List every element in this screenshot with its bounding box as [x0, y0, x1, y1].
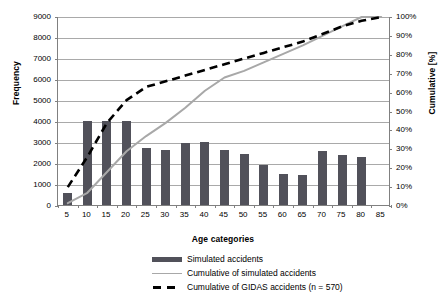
- dashed-line-swatch-swatch-fill: [153, 286, 181, 289]
- y-axis-right-tick-label: 0%: [396, 202, 436, 210]
- plot-area: [57, 17, 390, 206]
- frequency-cumulative-chart: Frequency Cumulative [%] Age categories …: [0, 0, 446, 302]
- legend-item: Cumulative of GIDAS accidents (n = 570): [0, 280, 446, 294]
- bar-swatch-swatch-fill: [152, 257, 182, 262]
- y-axis-left-tick-label: 3000: [0, 139, 56, 147]
- y-axis-right-tick-label: 90%: [396, 32, 436, 40]
- legend-label: Simulated accidents: [187, 254, 263, 264]
- line-swatch-swatch-fill: [152, 273, 182, 275]
- line-swatch: [152, 268, 182, 278]
- y-axis-right-tick-label: 70%: [396, 70, 436, 78]
- y-axis-left-tick-label: 8000: [0, 34, 56, 42]
- y-axis-left-tick-label: 5000: [0, 97, 56, 105]
- legend-item: Cumulative of simulated accidents: [0, 266, 446, 280]
- y-axis-right-tick-label: 30%: [396, 145, 436, 153]
- y-axis-right-tick-label: 50%: [396, 108, 436, 116]
- x-axis-tickmark: [391, 205, 392, 208]
- legend-label: Cumulative of GIDAS accidents (n = 570): [187, 282, 343, 292]
- y-axis-right-tick-label: 80%: [396, 51, 436, 59]
- bar-swatch: [152, 254, 182, 264]
- y-axis-left-tick-label: 4000: [0, 118, 56, 126]
- dashed-line-swatch: [152, 282, 182, 292]
- y-axis-left-tick-label: 2000: [0, 160, 56, 168]
- y-axis-left-tick-label: 7000: [0, 55, 56, 63]
- y-axis-left-tick-label: 9000: [0, 13, 56, 21]
- legend-item: Simulated accidents: [0, 252, 446, 266]
- x-axis-tick-label: 85: [368, 211, 392, 219]
- legend-label: Cumulative of simulated accidents: [187, 268, 316, 278]
- y-axis-left-tick-label: 0: [0, 202, 56, 210]
- y-axis-right-tick-label: 20%: [396, 164, 436, 172]
- chart-legend: Simulated accidentsCumulative of simulat…: [0, 252, 446, 294]
- y-axis-left-tick-label: 6000: [0, 76, 56, 84]
- y-axis-right-tick-label: 10%: [396, 183, 436, 191]
- line-cumulative-gidas: [68, 17, 381, 187]
- line-series-overlay: [58, 17, 391, 206]
- line-cumulative-simulated: [68, 17, 381, 203]
- y-axis-left-tick-label: 1000: [0, 181, 56, 189]
- y-axis-right-tick-label: 40%: [396, 126, 436, 134]
- y-axis-right-tick-label: 60%: [396, 89, 436, 97]
- x-axis-title: Age categories: [0, 234, 446, 244]
- y-axis-right-tick-label: 100%: [396, 13, 436, 21]
